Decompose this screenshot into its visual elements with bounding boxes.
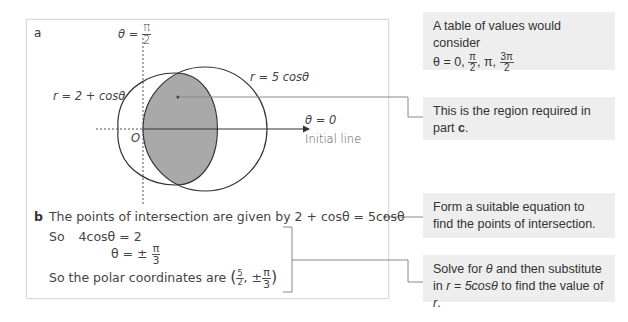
note-form-equation: Form a suitable equation to find the poi… (423, 193, 615, 238)
theta-zero-label: θ = 0 (305, 113, 336, 127)
part-b-label: b (34, 209, 43, 224)
part-b-line4: So the polar coordinates are (52, ±π3) (49, 267, 277, 290)
leader-line-solve (292, 260, 423, 282)
r-fraction: 52 (236, 270, 243, 287)
theta-fraction: π3 (262, 267, 271, 290)
intersection-statement: The points of intersection are given by … (49, 209, 405, 224)
equation-4costheta: 4cosθ = 2 (79, 229, 142, 244)
note-region-part-c: This is the region required in part c. (423, 97, 615, 140)
limacon-label: r = 2 + cosθ (53, 89, 125, 103)
pole-label: O (131, 131, 140, 145)
part-b-line1: bThe points of intersection are given by… (34, 209, 405, 224)
circle-label: r = 5 cosθ (250, 70, 309, 84)
part-b-line2: So4cosθ = 2 (49, 229, 142, 244)
note-table-of-values: A table of values would consider θ = 0, … (423, 12, 615, 70)
initial-line-label: Initial line (305, 132, 361, 146)
note-solve-theta: Solve for θ and then substitute in r = 5… (423, 255, 615, 302)
solution-bracket (283, 227, 292, 292)
pi-over-3-fraction: π 3 (152, 243, 161, 266)
theta-pi-over-2-label: θ = π 2 (118, 22, 151, 46)
theta-eq: θ = (118, 27, 138, 41)
pi-over-2-fraction: π 2 (142, 22, 151, 46)
part-b-line3: θ = ± π 3 (111, 243, 161, 266)
part-a-label: a (34, 26, 41, 40)
